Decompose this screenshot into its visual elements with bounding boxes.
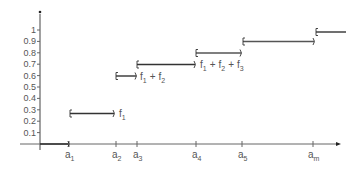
step-segments (40, 29, 346, 148)
y-tick-labels: 0.1 0.2 0.3 0.4 0.5 0.6 0.7 0.8 0.9 1 (23, 25, 36, 138)
x-tick-label-a5: a5 (238, 149, 248, 162)
x-tick-labels: a1 a2 a3 a4 a5 am (65, 149, 320, 162)
x-tick-label-a2: a2 (112, 149, 122, 162)
step-function-chart: 0.1 0.2 0.3 0.4 0.5 0.6 0.7 0.8 0.9 1 a1… (0, 0, 361, 171)
annotation-f1-f2: f1+f2 (140, 71, 165, 84)
y-tick-label: 0.1 (23, 128, 36, 138)
y-tick-label: 0.7 (23, 59, 36, 69)
annotation-f1-f2-f3: f1+f2+f3 (200, 59, 244, 72)
y-tick-label: 0.6 (23, 71, 36, 81)
y-tick-label: 0.2 (23, 116, 36, 126)
annotation-f1: f1 (119, 108, 126, 121)
y-tick-label: 0.4 (23, 93, 36, 103)
x-tick-label-am: am (308, 149, 320, 162)
y-axis-arrow (39, 11, 42, 14)
y-tick-label: 0.8 (23, 48, 36, 58)
x-tick-label-a4: a4 (192, 149, 202, 162)
y-tick-label: 0.5 (23, 82, 36, 92)
y-tick-label: 0.3 (23, 105, 36, 115)
x-tick-label-a3: a3 (133, 149, 143, 162)
y-tick-label: 0.9 (23, 36, 36, 46)
x-tick-label-a1: a1 (65, 149, 75, 162)
x-axis-arrow (336, 142, 341, 146)
y-tick-label: 1 (31, 25, 36, 35)
